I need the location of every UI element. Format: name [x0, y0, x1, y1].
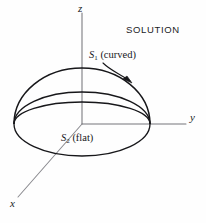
x-axis-label: x	[10, 198, 15, 209]
figure-container: z y x SOLUTION S1 (curved) S2 (flat)	[0, 0, 206, 223]
s2-flat-label: S2 (flat)	[61, 133, 93, 145]
z-axis-label: z	[78, 3, 82, 14]
s2-descriptor-text: (flat)	[72, 132, 93, 143]
solution-heading: SOLUTION	[126, 25, 180, 35]
axes-group	[18, 13, 186, 197]
s1-descriptor-text: (curved)	[100, 49, 136, 60]
s1-curved-label: S1 (curved)	[89, 50, 136, 62]
y-axis-label: y	[190, 112, 195, 123]
s1-leader-group	[103, 63, 132, 83]
